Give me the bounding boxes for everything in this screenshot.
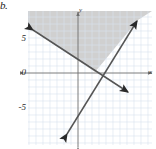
x-axis-label: x: [149, 68, 152, 76]
figure-container: b.: [0, 0, 156, 149]
y-axis-tick-label-neg5: -5: [8, 102, 26, 112]
y-axis-tick-label-5: 5: [12, 33, 26, 43]
y-axis-tick-label-0: 0: [12, 67, 26, 77]
y-axis-label: y: [79, 6, 82, 14]
